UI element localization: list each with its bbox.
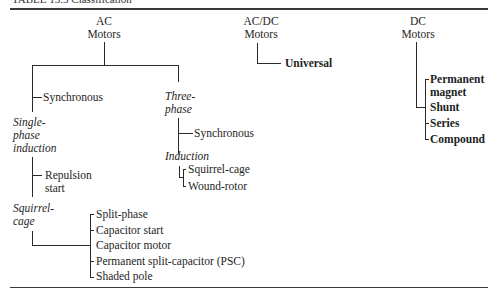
connector-line (178, 65, 179, 82)
connector-line (90, 214, 91, 277)
connector-line (179, 166, 180, 177)
connector-line (425, 79, 426, 139)
three-phase-synchronous-label: Synchronous (194, 127, 254, 140)
universal-label: Universal (285, 57, 332, 70)
connector-line (104, 42, 105, 65)
table-caption: TABLE 13.3 Classification (12, 0, 132, 5)
connector-line (32, 157, 33, 197)
split-phase-label: Split-phase (96, 208, 148, 221)
connector-line (183, 169, 186, 170)
connector-line (90, 261, 94, 262)
bottom-rule (10, 287, 488, 288)
compound-label: Compound (430, 133, 485, 146)
psc-label: Permanent split-capacitor (PSC) (96, 255, 245, 268)
ac-motors-title: AC Motors (84, 15, 124, 41)
dc-motors-title: DC Motors (398, 15, 438, 41)
single-phase-induction-label: Single- phase induction (13, 116, 56, 155)
permanent-magnet-label: Permanent magnet (430, 73, 484, 99)
connector-line (32, 97, 42, 98)
shunt-label: Shunt (430, 101, 459, 114)
capacitor-start-label: Capacitor start (96, 224, 163, 237)
connector-line (32, 65, 33, 112)
acdc-motors-title: AC/DC Motors (236, 15, 286, 41)
ac-synchronous-label: Synchronous (43, 91, 103, 104)
connector-line (32, 65, 179, 66)
capacitor-motor-label: Capacitor motor (96, 239, 171, 252)
connector-line (90, 214, 94, 215)
wound-rotor-label: Wound-rotor (188, 180, 247, 193)
squirrel-cage-label: Squirrel- cage (13, 202, 54, 228)
three-phase-label: Three- phase (165, 90, 195, 116)
induction-label: Induction (165, 150, 209, 163)
connector-line (178, 118, 179, 154)
squirrel-cage-3ph-label: Squirrel-cage (188, 163, 250, 176)
connector-line (90, 230, 94, 231)
series-label: Series (430, 117, 459, 130)
shaded-pole-label: Shaded pole (96, 270, 153, 283)
repulsion-start-label: Repulsion start (45, 169, 92, 195)
connector-line (416, 42, 417, 108)
connector-line (425, 79, 429, 80)
connector-line (416, 107, 425, 108)
connector-line (183, 186, 186, 187)
connector-line (425, 123, 429, 124)
connector-line (90, 277, 94, 278)
connector-line (183, 169, 184, 186)
connector-line (32, 231, 33, 245)
connector-line (32, 245, 90, 246)
top-rule (10, 8, 488, 10)
connector-line (178, 133, 193, 134)
connector-line (257, 43, 258, 63)
connector-line (425, 139, 429, 140)
connector-line (32, 175, 42, 176)
connector-line (257, 63, 281, 64)
